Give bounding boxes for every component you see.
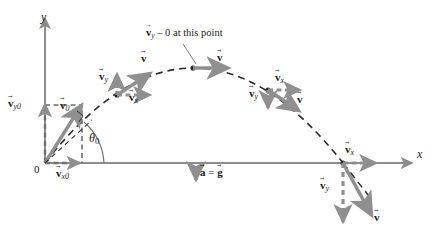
v-symbol-descending: v	[297, 93, 303, 105]
y-axis-label: y	[41, 11, 46, 23]
v-label-landing: v	[374, 212, 380, 223]
vx0-symbol: v	[56, 167, 62, 179]
descending-vectors	[265, 87, 300, 110]
origin-label: 0	[34, 164, 40, 175]
v0-subscript: 0	[66, 104, 70, 113]
vx-label-descending: vx	[275, 72, 284, 85]
v-symbol-apex: v	[217, 51, 223, 63]
vy-symbol: v	[99, 70, 105, 82]
v-label-ascending: v	[141, 53, 147, 64]
vx-label-landing: vx	[345, 144, 354, 157]
v-vector-descending	[268, 90, 298, 110]
v-label-apex: v	[217, 52, 223, 63]
vx-symbol-landing: v	[345, 143, 351, 155]
vy-subscript-descending: y	[255, 92, 259, 101]
vx-symbol-descending: v	[275, 71, 281, 83]
vy-subscript: y	[105, 75, 109, 84]
v0-vector	[45, 106, 81, 163]
v-label-descending: v	[297, 94, 303, 105]
landing-vectors	[340, 160, 376, 222]
acceleration-symbol: a	[200, 166, 206, 178]
vy-symbol-landing: v	[320, 179, 326, 191]
apex-note: vy – 0 at this point	[146, 28, 223, 40]
equals-sign: =	[208, 166, 214, 178]
theta0-label: θ0	[89, 132, 99, 146]
gravity-symbol: g	[217, 166, 223, 178]
apex-note-text: – 0 at this point	[157, 27, 222, 38]
vy-label-ascending: vy	[99, 71, 108, 84]
apex-leader-line	[183, 44, 196, 64]
vy0-label: vy0	[8, 98, 21, 111]
vy0-symbol: v	[8, 97, 14, 109]
vy-label-landing: vy	[320, 180, 329, 193]
vx-subscript-descending: x	[281, 76, 285, 85]
x-axis-label: x	[417, 148, 422, 160]
v-symbol-landing: v	[374, 211, 380, 223]
v-symbol: v	[141, 52, 147, 64]
v0-symbol: v	[60, 99, 66, 111]
theta-subscript: 0	[95, 136, 99, 146]
vx-label-ascending: vx	[129, 92, 138, 105]
projectile-motion-figure: y x 0 v0 vy0 vx0 θ0 vy – 0 at this point…	[0, 0, 443, 237]
vy-label-descending: vy	[249, 88, 258, 101]
v-vector-landing	[343, 163, 371, 214]
vy-symbol-descending: v	[249, 87, 255, 99]
vx-subscript-landing: x	[351, 148, 355, 157]
vy0-subscript: y0	[14, 102, 21, 111]
vx-symbol: v	[129, 91, 135, 103]
vx-subscript: x	[135, 96, 139, 105]
vx0-label: vx0	[56, 168, 69, 181]
vy-subscript-landing: y	[326, 184, 330, 193]
apex-note-symbol: v	[146, 27, 151, 38]
v0-label: v0	[60, 100, 69, 113]
axes	[45, 18, 412, 163]
vx0-subscript: x0	[62, 172, 69, 181]
gravity-label: a = g	[200, 167, 223, 178]
apex-note-subscript: y	[151, 31, 154, 40]
